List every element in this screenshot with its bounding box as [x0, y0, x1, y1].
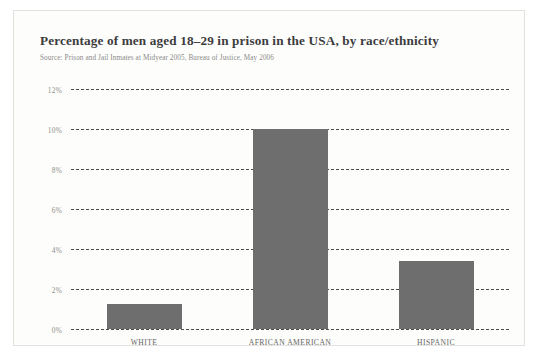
y-axis-tick-label: 12%	[48, 86, 62, 95]
x-axis-tick-label: HISPANIC	[417, 338, 455, 347]
bar	[399, 261, 474, 329]
bar	[253, 129, 328, 329]
gridline: 0%	[71, 329, 509, 330]
y-axis-tick-label: 10%	[48, 126, 62, 135]
plot-area: 0%2%4%6%8%10%12%WHITEAFRICAN AMERICANHIS…	[71, 89, 509, 329]
chart-source-note: Source: Prison and Jail Inmates at Midye…	[40, 54, 510, 62]
y-axis-tick-label: 0%	[52, 326, 62, 335]
y-axis-tick-label: 6%	[52, 206, 62, 215]
gridline: 12%	[71, 89, 509, 90]
chart-title: Percentage of men aged 18–29 in prison i…	[40, 33, 510, 49]
y-axis-tick-label: 2%	[52, 286, 62, 295]
x-axis-tick-label: AFRICAN AMERICAN	[249, 338, 332, 347]
chart-card: Percentage of men aged 18–29 in prison i…	[13, 10, 525, 346]
bar	[107, 304, 182, 329]
y-axis-tick-label: 4%	[52, 246, 62, 255]
x-axis-tick-label: WHITE	[131, 338, 158, 347]
chart-page: Percentage of men aged 18–29 in prison i…	[0, 0, 538, 357]
y-axis-tick-label: 8%	[52, 166, 62, 175]
